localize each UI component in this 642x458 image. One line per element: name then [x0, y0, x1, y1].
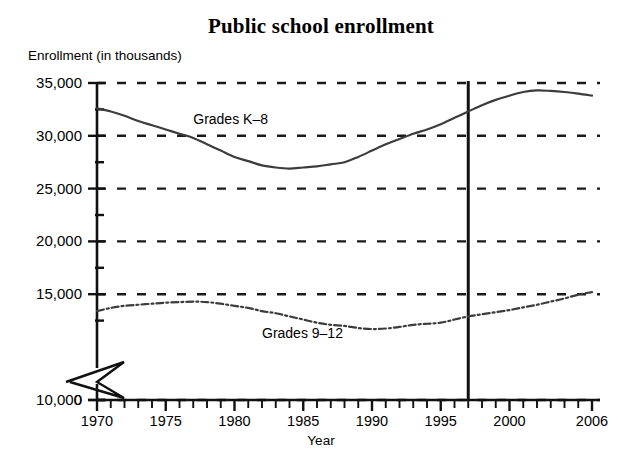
x-axis-tick-label: 1990 [337, 413, 407, 429]
x-axis-tick-label: 1985 [268, 413, 338, 429]
x-axis-tick-label: 1970 [62, 413, 132, 429]
series-line-1 [97, 90, 592, 168]
y-axis-tick-label: 35,000 [10, 74, 82, 91]
y-axis-tick-label: 30,000 [10, 127, 82, 144]
x-axis-tick-label: 2000 [475, 413, 545, 429]
x-axis-tick-label: 1995 [406, 413, 476, 429]
series-annotation-1: Grades K–8 [193, 111, 268, 127]
x-axis-tick-label: 2006 [557, 413, 627, 429]
y-axis-tick-label: 10,000 [10, 391, 82, 408]
series-line-2 [97, 292, 592, 329]
x-axis-tick-label: 1975 [131, 413, 201, 429]
y-axis-tick-label: 20,000 [10, 232, 82, 249]
x-axis-tick-label: 1980 [200, 413, 270, 429]
series-annotation-2: Grades 9–12 [262, 325, 343, 341]
plot-area [0, 0, 642, 458]
chart-figure: Public school enrollment Enrollment (in … [0, 0, 642, 458]
y-axis-tick-label: 15,000 [10, 285, 82, 302]
y-axis-tick-label: 25,000 [10, 180, 82, 197]
